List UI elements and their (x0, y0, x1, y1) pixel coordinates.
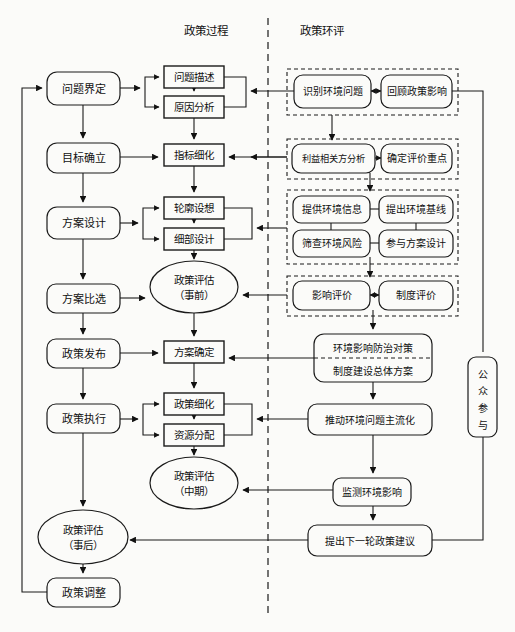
ellipse-policy-eval-pre[interactable] (150, 261, 238, 313)
conn-split-to-outline (143, 208, 159, 223)
conn-split-to-detail (143, 223, 159, 239)
header-policy-sea: 政策环评 (300, 24, 345, 37)
label-policy-execution: 政策执行 (62, 412, 106, 425)
conn-split-to-prefine (143, 404, 159, 419)
label-policy-eval-mid-line1: 政策评估 (174, 470, 215, 482)
ellipse-policy-eval-post[interactable] (38, 510, 128, 564)
conn-desc-cause-merge (224, 77, 246, 107)
label-propose-next-policy: 提出下一轮政策建议 (325, 535, 415, 547)
conn-prefine-resource-merge (224, 404, 252, 435)
label-policy-release: 政策发布 (62, 347, 106, 360)
label-scheme-design: 方案设计 (62, 216, 106, 229)
conn-split-to-resource (143, 419, 159, 435)
flowchart-svg: 政策过程 政策环评 (0, 0, 515, 632)
label-public-participation-char-0: 公 (478, 369, 488, 380)
label-monitor-env-impact: 监测环境影响 (342, 486, 402, 498)
label-stakeholder-analysis: 利益相关方分析 (302, 153, 365, 164)
label-identify-env-problem: 识别环境问题 (303, 85, 363, 97)
conn-split-to-desc (145, 77, 159, 88)
label-determine-eval-focus: 确定评价重点 (387, 152, 447, 164)
label-impact-evaluation: 影响评价 (312, 289, 352, 301)
label-countermeasure-line1: 环境影响防治对策 (333, 342, 413, 354)
label-outline-conception: 轮廓设想 (174, 202, 214, 214)
label-cause-analysis: 原因分析 (174, 101, 215, 113)
label-public-participation-char-3: 与 (478, 420, 488, 431)
label-problem-definition: 问题界定 (62, 82, 106, 95)
flowchart-canvas: 政策过程 政策环评 (0, 0, 515, 632)
label-policy-eval-pre-line1: 政策评估 (174, 274, 215, 286)
label-goal-setting: 目标确立 (62, 151, 106, 164)
conn-review-to-public (452, 91, 483, 352)
label-public-participation-char-2: 参 (478, 402, 488, 414)
label-policy-eval-pre-line2: （事前） (174, 289, 214, 301)
label-mainstream-env-issue: 推动环境问题主流化 (325, 414, 415, 426)
label-countermeasure-line2: 制度建设总体方案 (333, 365, 413, 377)
label-join-scheme-design: 参与方案设计 (386, 237, 446, 249)
label-policy-adjustment: 政策调整 (62, 586, 106, 599)
label-policy-eval-post-line2: （事后） (63, 539, 103, 551)
header-policy-process: 政策过程 (184, 24, 229, 37)
label-resource-allocation: 资源分配 (174, 429, 215, 441)
label-screen-env-risk: 筛查环境风险 (302, 237, 362, 249)
conn-feedback-loop-left (22, 88, 47, 592)
conn-outline-detail-merge (224, 208, 252, 239)
label-propose-env-baseline: 提出环境基线 (386, 203, 446, 215)
conn-split-to-cause (145, 88, 159, 107)
label-review-policy-impact: 回顾政策影响 (387, 85, 447, 97)
label-provide-env-info: 提供环境信息 (302, 203, 362, 215)
label-scheme-selection: 方案比选 (62, 292, 106, 305)
conn-public-to-nextpolicy (432, 437, 483, 540)
label-detail-design: 细部设计 (174, 233, 215, 245)
label-policy-refine: 政策细化 (174, 398, 215, 410)
label-policy-eval-mid-line2: （中期） (174, 485, 214, 497)
label-indicator-refine: 指标细化 (174, 149, 215, 161)
label-policy-eval-post-line1: 政策评估 (63, 524, 104, 536)
ellipse-policy-eval-mid[interactable] (150, 457, 238, 509)
label-scheme-confirm: 方案确定 (174, 346, 215, 358)
label-public-participation-char-1: 众 (478, 386, 488, 397)
label-problem-description: 问题描述 (174, 71, 215, 83)
label-institution-evaluation: 制度评价 (396, 289, 436, 301)
